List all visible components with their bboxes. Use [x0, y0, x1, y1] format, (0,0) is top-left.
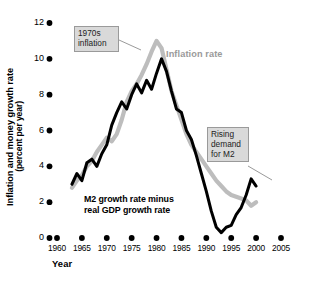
x-axis-tick-markers: [54, 235, 284, 241]
y-tick-label: 12: [28, 18, 44, 27]
x-tick-dot: [79, 235, 85, 241]
leader-line-1970s: [119, 40, 141, 50]
series-label-m2-minus-gdp: M2 growth rate minus real GDP growth rat…: [84, 194, 174, 215]
series-label-m2-line2: real GDP growth rate: [84, 205, 174, 216]
x-tick-dot: [253, 235, 259, 241]
annotation-1970s-inflation: 1970s inflation: [74, 26, 119, 52]
y-tick-dot: [47, 235, 53, 241]
chart-container: Inflation and money growth rate (percent…: [0, 0, 315, 283]
series-label-inflation-rate: Inflation rate: [166, 49, 223, 60]
y-tick-dot: [47, 56, 53, 62]
x-axis-title: Year: [52, 258, 72, 269]
x-tick-label: 1970: [94, 244, 120, 252]
x-tick-label: 2005: [268, 244, 294, 252]
x-tick-label: 1990: [193, 244, 219, 252]
annotation-leader-lines: [119, 40, 272, 180]
y-axis-title: Inflation and money growth rate (percent…: [2, 34, 28, 239]
x-tick-dot: [154, 235, 160, 241]
x-tick-dot: [54, 235, 60, 241]
series-label-m2-line1: M2 growth rate minus: [84, 194, 174, 205]
y-axis-title-line2: (percent per year): [15, 101, 24, 172]
y-tick-label: 10: [28, 54, 44, 63]
x-tick-label: 1975: [119, 244, 145, 252]
y-tick-dot: [47, 199, 53, 205]
x-tick-label: 1960: [44, 244, 70, 252]
annotation-m2demand-line3: for M2: [211, 150, 245, 160]
y-tick-label: 4: [28, 161, 44, 170]
x-tick-dot: [228, 235, 234, 241]
x-tick-label: 1995: [218, 244, 244, 252]
x-tick-label: 2000: [243, 244, 269, 252]
y-axis-tick-markers: [47, 20, 53, 241]
y-tick-dot: [47, 92, 53, 98]
chart-plot-area: [0, 0, 315, 283]
x-tick-dot: [104, 235, 110, 241]
y-tick-label: 2: [28, 197, 44, 206]
x-tick-dot: [129, 235, 135, 241]
y-tick-dot: [47, 20, 53, 26]
x-tick-dot: [278, 235, 284, 241]
x-tick-label: 1985: [168, 244, 194, 252]
x-tick-dot: [179, 235, 185, 241]
annotation-rising-demand-for-m2: Rising demand for M2: [207, 127, 249, 162]
annotation-1970s-line2: inflation: [78, 39, 115, 49]
x-tick-label: 1980: [144, 244, 170, 252]
x-tick-dot: [203, 235, 209, 241]
y-tick-label: 0: [28, 233, 44, 242]
x-tick-label: 1965: [69, 244, 95, 252]
y-tick-dot: [47, 128, 53, 134]
y-tick-label: 8: [28, 90, 44, 99]
y-tick-label: 6: [28, 126, 44, 135]
y-tick-dot: [47, 163, 53, 169]
